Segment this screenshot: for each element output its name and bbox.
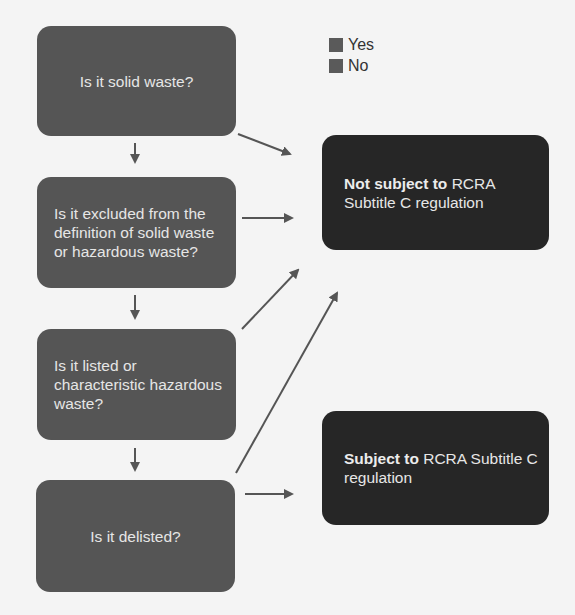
result-subject: Subject to RCRA Subtitle C regulation xyxy=(322,411,549,525)
arrow-q1-to-not-subject xyxy=(238,134,290,154)
legend-yes-label: Yes xyxy=(348,36,374,54)
arrow-q3-to-not-subject xyxy=(242,270,298,329)
question-delisted: Is it delisted? xyxy=(36,480,235,592)
legend: Yes No xyxy=(329,34,374,76)
result-text: Not subject to RCRA Subtitle C regulatio… xyxy=(344,174,539,212)
legend-no: No xyxy=(329,55,374,76)
question-solid-waste: Is it solid waste? xyxy=(37,26,236,136)
question-listed: Is it listed or characteristic hazardous… xyxy=(37,329,236,440)
legend-yes: Yes xyxy=(329,34,374,55)
question-text: Is it listed or characteristic hazardous… xyxy=(54,356,226,413)
question-text: Is it excluded from the definition of so… xyxy=(54,204,226,261)
result-text: Subject to RCRA Subtitle C regulation xyxy=(344,449,539,487)
result-not-subject: Not subject to RCRA Subtitle C regulatio… xyxy=(322,135,549,250)
result-bold: Not subject to xyxy=(344,175,447,192)
yes-swatch xyxy=(329,38,343,52)
no-swatch xyxy=(329,59,343,73)
question-text: Is it delisted? xyxy=(90,527,180,546)
question-excluded: Is it excluded from the definition of so… xyxy=(37,177,236,288)
result-bold: Subject to xyxy=(344,450,419,467)
question-text: Is it solid waste? xyxy=(80,72,194,91)
legend-no-label: No xyxy=(348,57,368,75)
